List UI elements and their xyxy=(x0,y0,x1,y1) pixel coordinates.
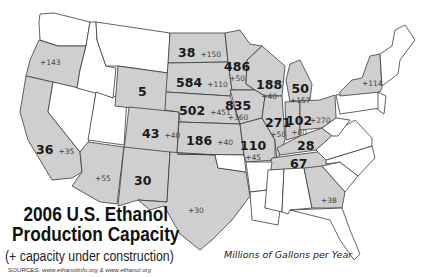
label-michigan: 50+157 xyxy=(290,80,311,105)
label-iowa: 835+360 xyxy=(225,97,251,122)
label-kansas: 186 +40 xyxy=(186,132,233,148)
label-nebraska: 502 +451 xyxy=(179,102,231,118)
label-california: 36 +35 xyxy=(36,141,74,157)
label-arizona: +55 xyxy=(95,168,111,184)
label-ohio: +270 xyxy=(310,110,331,126)
sources-text: www.ethanolinfo.org & www.ethanol.org xyxy=(42,266,151,273)
title-line-2: Production Capacity xyxy=(12,224,179,244)
state-washington xyxy=(39,13,90,46)
map-title: 2006 U.S. Ethanol Production Capacity xyxy=(12,204,179,244)
state-montana xyxy=(96,22,170,73)
sources-note: SOURCES: www.ethanolinfo.org & www.ethan… xyxy=(8,266,151,273)
label-north-dakota: 38 +150 xyxy=(178,44,221,60)
label-texas: +30 xyxy=(188,200,204,216)
label-new-york: +114 xyxy=(362,73,383,89)
label-georgia: +38 xyxy=(321,190,337,206)
label-kentucky: 28 xyxy=(297,137,314,153)
map-subtitle: (+ capacity under construction) xyxy=(5,248,174,264)
state-new-england xyxy=(380,25,415,86)
title-line-1: 2006 U.S. Ethanol xyxy=(12,204,179,224)
label-missouri: 110+45 xyxy=(240,137,266,162)
label-oregon: +143 xyxy=(40,52,61,68)
sources-label: SOURCES: xyxy=(8,266,40,273)
label-minnesota: 486+50 xyxy=(224,58,250,83)
state-mississippi xyxy=(265,169,284,212)
label-indiana: 102+80 xyxy=(286,112,312,137)
label-south-dakota: 584 +110 xyxy=(176,74,228,90)
state-new-jersey xyxy=(378,92,386,114)
label-tennessee: 67 xyxy=(290,155,307,171)
label-wyoming: 5 xyxy=(138,83,147,99)
units-label: Millions of Gallons per Year xyxy=(224,249,352,260)
label-wisconsin: 188+40 xyxy=(256,76,282,101)
label-new-mexico: 30 xyxy=(134,172,151,188)
label-colorado: 43 +40 xyxy=(142,125,180,141)
